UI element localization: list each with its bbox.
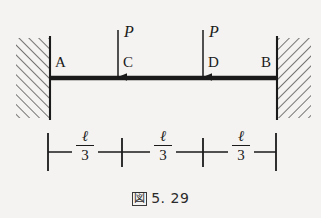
dimension-label-3-fraction-bar	[232, 145, 250, 146]
support-label-b: B	[261, 55, 271, 70]
beam-diagram-svg	[0, 0, 321, 218]
load-label-p-c: P	[124, 24, 134, 40]
dimension-label-1: ℓ 3	[76, 129, 94, 163]
figure-caption-mark: 図	[132, 192, 148, 206]
left-support-hatching	[16, 38, 50, 118]
support-label-a: A	[55, 55, 66, 70]
dimension-label-2-denominator: 3	[154, 147, 172, 163]
dimension-label-3: ℓ 3	[232, 129, 250, 163]
left-fixed-support	[16, 36, 50, 120]
figure-container: A C D B P P ℓ 3 ℓ 3 ℓ 3 図5. 29	[0, 0, 321, 218]
dimension-label-1-denominator: 3	[76, 147, 94, 163]
dimension-label-2-numerator: ℓ	[154, 129, 172, 145]
dimension-label-3-numerator: ℓ	[232, 129, 250, 145]
load-label-p-d: P	[209, 24, 219, 40]
figure-caption-number: 5. 29	[151, 190, 189, 206]
dimension-label-2: ℓ 3	[154, 129, 172, 163]
dimension-label-1-fraction-bar	[76, 145, 94, 146]
dimension-label-3-denominator: 3	[232, 147, 250, 163]
right-support-hatching	[277, 38, 311, 118]
load-point-label-d: D	[208, 55, 219, 70]
load-point-label-c: C	[123, 55, 133, 70]
dimension-label-1-numerator: ℓ	[76, 129, 94, 145]
right-fixed-support	[277, 36, 311, 120]
figure-caption: 図5. 29	[0, 190, 321, 206]
dimension-label-2-fraction-bar	[154, 145, 172, 146]
